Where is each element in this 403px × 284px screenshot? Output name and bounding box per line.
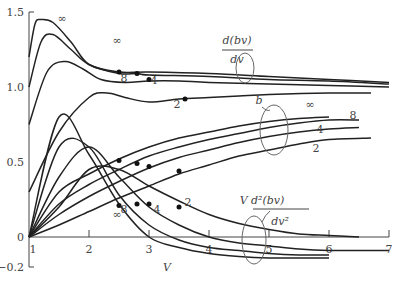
- x-tick-label: 3: [146, 243, 153, 256]
- data-point-marker: [117, 158, 122, 163]
- data-point-marker: [183, 97, 188, 102]
- label-infinity: ∞: [57, 12, 66, 25]
- leader-line: [262, 211, 270, 222]
- label-infinity: ∞: [112, 34, 121, 47]
- data-point-marker: [177, 169, 182, 174]
- label-4: 4: [317, 123, 324, 136]
- data-point-marker: [177, 205, 182, 210]
- data-point-marker: [135, 161, 140, 166]
- label-2: 2: [174, 98, 181, 111]
- label-dbv-dv-num: d(bv): [223, 34, 252, 47]
- label-vd2bv-den: dv²: [271, 215, 289, 228]
- data-point-marker: [147, 164, 152, 169]
- x-tick-label: 7: [386, 243, 393, 256]
- curve-b: [29, 128, 359, 238]
- data-point-marker: [135, 71, 140, 76]
- chart-plot: −0.200.51.01.51234567V∞∞842∞842842∞d(bv)…: [0, 0, 403, 284]
- group-ellipse: [260, 105, 288, 155]
- chart: −0.200.51.01.51234567V∞∞842∞842842∞d(bv)…: [0, 0, 403, 284]
- curve-dbvdv: [29, 19, 389, 82]
- y-tick-label: −0.2: [0, 261, 24, 274]
- label-vd2bv-num: V d²(bv): [240, 194, 285, 207]
- data-point-marker: [147, 202, 152, 207]
- x-axis-label: V: [163, 261, 172, 274]
- y-tick-label: 1.0: [7, 81, 25, 94]
- label-4: 4: [154, 203, 161, 216]
- label-b: b: [255, 94, 262, 107]
- x-tick-label: 1: [30, 243, 37, 256]
- x-tick-label: 6: [326, 243, 333, 256]
- curve-dbvdv: [29, 34, 389, 87]
- y-tick-label: 1.5: [7, 6, 25, 19]
- label-2: 2: [185, 196, 192, 209]
- label-infinity: ∞: [305, 98, 314, 111]
- label-8: 8: [121, 72, 128, 85]
- x-tick-label: 2: [86, 243, 93, 256]
- label-4: 4: [151, 74, 158, 87]
- label-infinity: ∞: [112, 208, 121, 221]
- y-tick-label: 0.5: [7, 156, 25, 169]
- data-point-marker: [135, 202, 140, 207]
- label-8: 8: [350, 109, 357, 122]
- curve-vdbvdv: [29, 166, 359, 237]
- label-2: 2: [313, 142, 320, 155]
- y-tick-label: 0: [17, 231, 24, 244]
